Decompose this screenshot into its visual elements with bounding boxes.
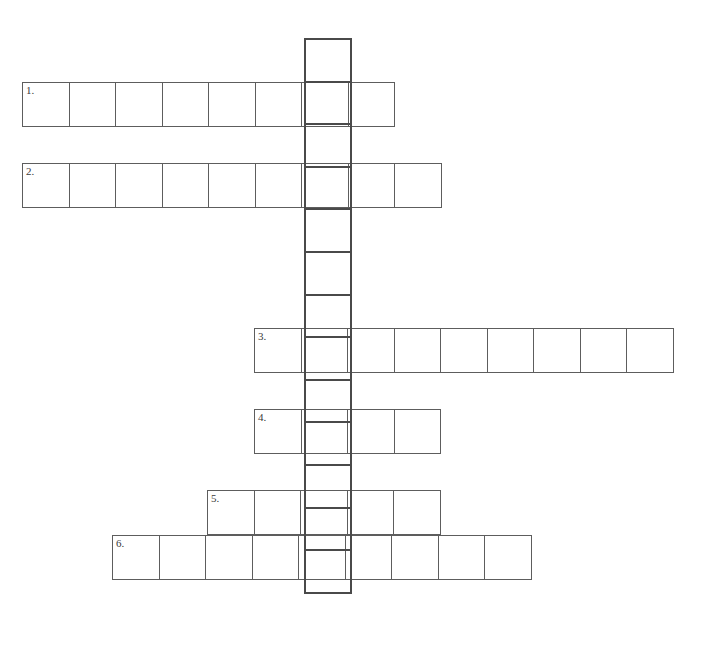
crossword-cell[interactable] — [255, 163, 303, 208]
crossword-cell[interactable] — [394, 163, 442, 208]
crossword-cell[interactable] — [394, 328, 442, 373]
crossword-cell[interactable] — [162, 163, 210, 208]
crossword-cell[interactable] — [533, 328, 581, 373]
down-column-cell[interactable] — [304, 421, 352, 466]
clue-number: 4. — [258, 411, 266, 423]
down-column-cell[interactable] — [304, 251, 352, 296]
crossword-cell[interactable] — [208, 163, 256, 208]
clue-number: 6. — [116, 537, 124, 549]
down-column-cell[interactable] — [304, 549, 352, 594]
down-answer-column — [304, 38, 352, 594]
crossword-cell[interactable] — [394, 409, 442, 454]
clue-number: 5. — [211, 492, 219, 504]
down-column-cell[interactable] — [304, 507, 352, 552]
crossword-cell[interactable] — [348, 82, 396, 127]
crossword-cell[interactable]: 3. — [254, 328, 302, 373]
crossword-cell[interactable] — [347, 328, 395, 373]
crossword-cell[interactable] — [626, 328, 674, 373]
clue-number: 3. — [258, 330, 266, 342]
crossword-cell[interactable]: 2. — [22, 163, 70, 208]
crossword-cell[interactable] — [69, 82, 117, 127]
down-column-cell[interactable] — [304, 38, 352, 83]
clue-number: 2. — [26, 165, 34, 177]
clue-number: 1. — [26, 84, 34, 96]
crossword-cell[interactable] — [347, 409, 395, 454]
crossword-cell[interactable] — [580, 328, 628, 373]
across-entry-2: 2. — [22, 163, 442, 208]
crossword-cell[interactable] — [345, 535, 393, 580]
crossword-cell[interactable] — [438, 535, 486, 580]
crossword-cell[interactable] — [115, 163, 163, 208]
crossword-cell[interactable] — [391, 535, 439, 580]
crossword-cell[interactable]: 1. — [22, 82, 70, 127]
crossword-cell[interactable] — [484, 535, 532, 580]
down-column-cell[interactable] — [304, 379, 352, 424]
crossword-cell[interactable] — [347, 490, 395, 535]
crossword-puzzle: 1.2.3.4.5.6. — [0, 0, 718, 650]
down-column-cell[interactable] — [304, 464, 352, 509]
crossword-cell[interactable] — [440, 328, 488, 373]
down-column-cell[interactable] — [304, 294, 352, 339]
down-column-cell[interactable] — [304, 208, 352, 253]
crossword-cell[interactable] — [208, 82, 256, 127]
crossword-cell[interactable] — [205, 535, 253, 580]
crossword-cell[interactable] — [159, 535, 207, 580]
crossword-cell[interactable] — [69, 163, 117, 208]
crossword-cell[interactable] — [162, 82, 210, 127]
crossword-cell[interactable] — [255, 82, 303, 127]
crossword-cell[interactable]: 6. — [112, 535, 160, 580]
down-column-cell[interactable] — [304, 123, 352, 168]
down-column-cell[interactable] — [304, 81, 352, 126]
crossword-cell[interactable]: 5. — [207, 490, 255, 535]
crossword-cell[interactable] — [252, 535, 300, 580]
down-column-cell[interactable] — [304, 166, 352, 211]
crossword-cell[interactable] — [115, 82, 163, 127]
crossword-cell[interactable] — [348, 163, 396, 208]
down-column-cell[interactable] — [304, 336, 352, 381]
crossword-cell[interactable]: 4. — [254, 409, 302, 454]
crossword-cell[interactable] — [487, 328, 535, 373]
crossword-cell[interactable] — [254, 490, 302, 535]
crossword-cell[interactable] — [393, 490, 441, 535]
